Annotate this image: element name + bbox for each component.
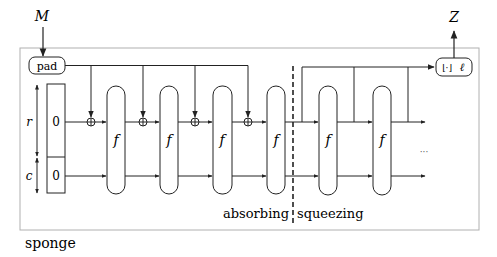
sponge-frame <box>20 48 479 230</box>
xor-icon-2 <box>139 118 147 126</box>
f-box-absorb-4: f <box>267 86 285 194</box>
state-rate-zero: 0 <box>52 115 60 129</box>
f-box-absorb-1: f <box>107 86 125 194</box>
pad-label: pad <box>37 60 58 73</box>
truncate-bracket: ⌊·⌋ <box>442 63 452 73</box>
f-box-squeeze-2: f <box>373 86 391 195</box>
f-box-absorb-2: f <box>160 86 178 194</box>
squeezing-label: squeezing <box>297 206 363 221</box>
f-box-absorb-3: f <box>213 86 232 194</box>
xor-icon-4 <box>244 118 252 126</box>
diagram-caption: sponge <box>25 235 76 251</box>
f-box-squeeze-1: f <box>319 86 337 195</box>
pad-box: pad <box>29 57 65 74</box>
xor-icon-1 <box>87 118 95 126</box>
state-capacity-zero: 0 <box>52 169 60 183</box>
input-label-m: M <box>34 8 50 24</box>
rate-label: r <box>26 115 33 129</box>
continuation-ellipsis: ··· <box>420 147 429 157</box>
truncate-box: ⌊·⌋ ℓ <box>436 58 472 76</box>
output-label-z: Z <box>448 9 459 25</box>
state-box: 0 0 <box>47 84 65 193</box>
xor-icon-3 <box>191 118 199 126</box>
capacity-label: c <box>26 169 33 183</box>
absorbing-label: absorbing <box>223 206 289 221</box>
truncate-length: ℓ <box>460 61 465 74</box>
sponge-diagram: M pad r c 0 0 <box>0 0 497 257</box>
